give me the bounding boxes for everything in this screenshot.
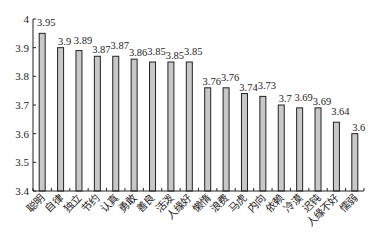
value-label: 3.9 bbox=[58, 36, 71, 47]
x-category-label: 善良 bbox=[134, 192, 157, 215]
bar bbox=[113, 56, 119, 191]
value-label: 3.76 bbox=[203, 76, 221, 87]
bar bbox=[333, 122, 339, 191]
value-label: 3.76 bbox=[221, 72, 239, 83]
value-label: 3.87 bbox=[111, 40, 129, 51]
y-tick-label: 3.6 bbox=[15, 128, 29, 140]
bar bbox=[205, 88, 211, 191]
x-category-label: 浪费 bbox=[208, 192, 231, 215]
bar bbox=[278, 105, 284, 191]
bar bbox=[352, 134, 358, 191]
y-axis: 3.43.53.63.73.83.94 bbox=[15, 13, 36, 197]
y-tick-label: 3.4 bbox=[15, 185, 29, 197]
x-category-label: 冷漠 bbox=[281, 191, 304, 214]
value-label: 3.69 bbox=[294, 92, 312, 103]
y-tick-label: 4 bbox=[24, 13, 30, 25]
bar bbox=[131, 59, 137, 191]
value-label: 3.85 bbox=[184, 46, 202, 57]
bars: 3.953.93.893.873.873.863.853.853.853.763… bbox=[37, 17, 365, 191]
bar bbox=[186, 62, 192, 191]
x-category-label: 内向 bbox=[245, 192, 268, 215]
value-label: 3.6 bbox=[352, 122, 365, 133]
x-category-label: 认真 bbox=[98, 192, 121, 215]
y-tick-label: 3.8 bbox=[15, 70, 29, 82]
value-label: 3.73 bbox=[258, 80, 276, 91]
x-category-label: 勇敢 bbox=[116, 191, 139, 214]
value-label: 3.7 bbox=[279, 93, 292, 104]
bar bbox=[223, 88, 229, 191]
value-label: 3.69 bbox=[313, 96, 331, 107]
x-category-label: 依赖 bbox=[263, 191, 286, 214]
x-category-label: 独立 bbox=[61, 192, 84, 215]
value-label: 3.89 bbox=[74, 35, 92, 46]
value-label: 3.85 bbox=[147, 46, 165, 57]
bar bbox=[39, 33, 45, 191]
bar bbox=[168, 62, 174, 191]
bar bbox=[315, 108, 321, 191]
value-label: 3.86 bbox=[129, 47, 147, 58]
bar-chart: 3.43.53.63.73.83.94 3.953.93.893.873.873… bbox=[0, 0, 377, 244]
value-label: 3.95 bbox=[37, 17, 55, 28]
value-label: 3.74 bbox=[239, 82, 258, 93]
value-label: 3.64 bbox=[331, 106, 350, 117]
value-label: 3.87 bbox=[92, 44, 110, 55]
y-tick-label: 3.7 bbox=[15, 99, 29, 111]
bar bbox=[76, 51, 82, 191]
x-axis: 聪明自律独立节约认真勇敢善良活泼人缘好懒惰浪费马虎内向依赖冷漠迟钝人缘不好懦弱 bbox=[24, 188, 364, 229]
bar bbox=[58, 48, 64, 191]
x-category-label: 节约 bbox=[79, 192, 102, 215]
y-tick-label: 3.5 bbox=[15, 156, 29, 168]
bar bbox=[94, 56, 100, 191]
value-label: 3.85 bbox=[166, 50, 184, 61]
x-category-label: 懒惰 bbox=[189, 192, 212, 215]
bar bbox=[241, 94, 247, 191]
x-category-label: 懦弱 bbox=[337, 192, 360, 215]
x-category-label: 马虎 bbox=[227, 193, 249, 215]
y-tick-label: 3.9 bbox=[15, 42, 29, 54]
bar bbox=[260, 96, 266, 191]
bar bbox=[297, 108, 303, 191]
bar bbox=[150, 62, 156, 191]
x-category-label: 自律 bbox=[42, 191, 65, 214]
